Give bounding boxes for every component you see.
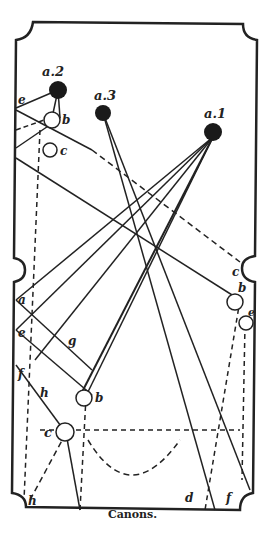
ball-b-right	[227, 294, 243, 310]
label-h-bottom: h	[28, 494, 37, 508]
label-g: g	[68, 334, 76, 348]
figure-caption: Canons.	[0, 508, 265, 521]
label-c-bottom: c	[44, 425, 52, 440]
label-f-bottom: f	[225, 491, 233, 505]
label-a1: a.1	[204, 106, 226, 121]
label-b-right: b	[238, 281, 246, 295]
label-e-right: e	[248, 306, 255, 319]
label-c-right: c	[232, 265, 240, 279]
label-b-top: b	[62, 113, 70, 127]
label-a-left: a	[18, 293, 26, 307]
ball-b-top	[44, 112, 60, 128]
label-c-top: c	[60, 144, 68, 158]
label-h-mid: h	[40, 386, 49, 400]
label-e-top: e	[18, 93, 26, 107]
ball-b-bottom	[76, 390, 92, 406]
label-b-bottom: b	[95, 391, 103, 405]
label-a3: a.3	[94, 88, 116, 103]
label-a2: a.2	[42, 64, 64, 79]
ball-c-bottom	[56, 423, 74, 441]
ball-c-top	[43, 143, 57, 157]
label-f-left: f	[17, 367, 25, 381]
ball-a3	[95, 105, 111, 121]
label-e-left: e	[18, 326, 26, 340]
ball-a2	[49, 81, 67, 99]
ball-a1	[204, 123, 222, 141]
billiard-table-diagram: a.2 a.3 a.1 b c e c b e a e f g h b c h …	[0, 0, 265, 548]
label-d-bottom: d	[185, 491, 194, 505]
